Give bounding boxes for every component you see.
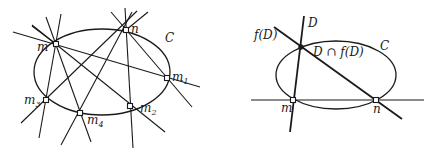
label-m1: m1 <box>172 70 188 86</box>
label-line-fd: f(D) <box>253 28 278 42</box>
point-m3 <box>44 98 49 103</box>
point-m1 <box>165 76 170 81</box>
label-m: m <box>37 40 48 54</box>
line-m-m4 <box>46 17 91 142</box>
point-d-intersect-fd <box>299 45 304 50</box>
label-conic-c-right: C <box>380 39 389 53</box>
diagram-canvas: m n C m1 m2 m3 m4 D f(D) D ∩ f(D) C m n <box>0 0 433 154</box>
label-m-right: m <box>281 101 292 115</box>
label-m3: m3 <box>24 93 40 109</box>
line-n-m1 <box>111 12 192 107</box>
left-figure: m n C m1 m2 m3 m4 <box>13 8 200 148</box>
label-intersection: D ∩ f(D) <box>312 45 364 59</box>
label-m2: m2 <box>140 101 156 117</box>
label-n-right: n <box>373 102 381 116</box>
point-m2 <box>128 104 133 109</box>
label-conic-c-left: C <box>165 31 174 45</box>
label-n: n <box>131 22 139 36</box>
point-n <box>124 28 129 33</box>
right-figure: D f(D) D ∩ f(D) C m n <box>251 16 424 132</box>
point-m <box>54 42 59 47</box>
point-m4 <box>78 111 83 116</box>
label-line-d: D <box>307 16 318 30</box>
